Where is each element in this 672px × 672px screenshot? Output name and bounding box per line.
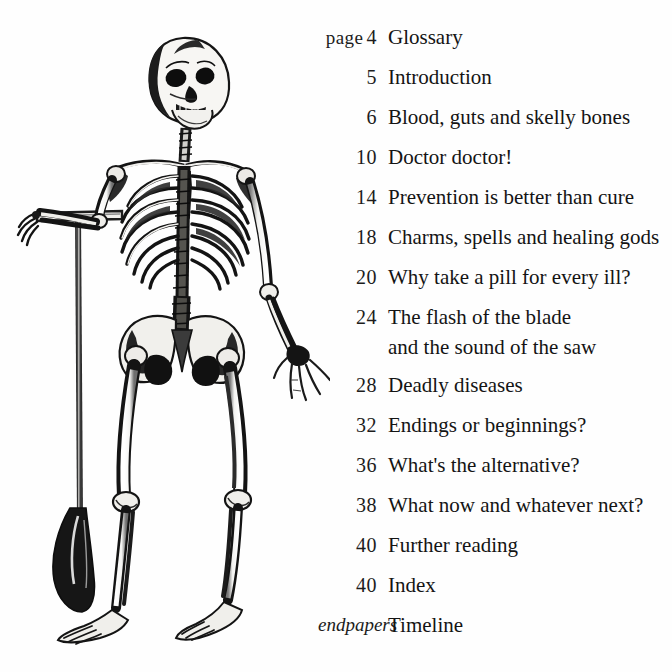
toc-page-number: 6 bbox=[318, 102, 388, 132]
toc-entry-title[interactable]: Introduction bbox=[388, 62, 672, 92]
ribcage bbox=[121, 166, 249, 300]
toc-page-number: endpapers bbox=[318, 610, 388, 640]
skeleton-illustration bbox=[0, 0, 330, 672]
toc-entry-title[interactable]: Why take a pill for every ill? bbox=[388, 262, 672, 292]
table-of-contents: page4 Glossary 5 Introduction 6 Blood, g… bbox=[318, 22, 672, 650]
toc-entry[interactable]: 38 What now and whatever next? bbox=[318, 490, 672, 530]
toc-entry[interactable]: 40 Further reading bbox=[318, 530, 672, 570]
toc-page-number: 38 bbox=[318, 490, 388, 520]
toc-entry[interactable]: 18 Charms, spells and healing gods bbox=[318, 222, 672, 262]
toc-entry-title[interactable]: Prevention is better than cure bbox=[388, 182, 672, 212]
toc-title-line2: and the sound of the saw bbox=[388, 332, 672, 362]
page-label: page bbox=[326, 27, 364, 48]
toc-entry[interactable]: 28 Deadly diseases bbox=[318, 370, 672, 410]
toc-entry[interactable]: 40 Index bbox=[318, 570, 672, 610]
toc-page-number: page4 bbox=[318, 22, 388, 53]
skull bbox=[149, 38, 230, 129]
toc-page-number: 20 bbox=[318, 262, 388, 292]
toc-page-number: 36 bbox=[318, 450, 388, 480]
toc-page: page4 Glossary 5 Introduction 6 Blood, g… bbox=[0, 0, 672, 672]
toc-entry-title[interactable]: Charms, spells and healing gods bbox=[388, 222, 672, 252]
toc-entry-title[interactable]: Glossary bbox=[388, 22, 672, 52]
toc-entry-title[interactable]: The flash of the bladeand the sound of t… bbox=[388, 302, 672, 362]
toc-title-line1: The flash of the blade bbox=[388, 305, 571, 329]
toc-entry-title[interactable]: Doctor doctor! bbox=[388, 142, 672, 172]
toc-entry[interactable]: 32 Endings or beginnings? bbox=[318, 410, 672, 450]
toc-entry-title[interactable]: Index bbox=[388, 570, 672, 600]
toc-page-number: 28 bbox=[318, 370, 388, 400]
cervical-spine bbox=[179, 128, 192, 162]
toc-entry-title[interactable]: What now and whatever next? bbox=[388, 490, 672, 520]
toc-page-number: 14 bbox=[318, 182, 388, 212]
toc-page-number: 40 bbox=[318, 570, 388, 600]
toc-page-number: 18 bbox=[318, 222, 388, 252]
toc-page-number: 40 bbox=[318, 530, 388, 560]
toc-entry-title[interactable]: What's the alternative? bbox=[388, 450, 672, 480]
spade bbox=[37, 211, 122, 612]
toc-page-number: 24 bbox=[318, 302, 388, 332]
toc-entry-title[interactable]: Timeline bbox=[388, 610, 672, 640]
toc-entry-title[interactable]: Endings or beginnings? bbox=[388, 410, 672, 440]
toc-entry[interactable]: 20 Why take a pill for every ill? bbox=[318, 262, 672, 302]
toc-page-number: 10 bbox=[318, 142, 388, 172]
toc-page-number: 5 bbox=[318, 62, 388, 92]
toc-entry-title[interactable]: Blood, guts and skelly bones bbox=[388, 102, 672, 132]
toc-entry[interactable]: 36 What's the alternative? bbox=[318, 450, 672, 490]
toc-entry[interactable]: page4 Glossary bbox=[318, 22, 672, 62]
toc-entry[interactable]: 5 Introduction bbox=[318, 62, 672, 102]
toc-entry[interactable]: 6 Blood, guts and skelly bones bbox=[318, 102, 672, 142]
toc-entry[interactable]: 14 Prevention is better than cure bbox=[318, 182, 672, 222]
toc-entry[interactable]: 10 Doctor doctor! bbox=[318, 142, 672, 182]
left-arm bbox=[18, 180, 112, 245]
toc-page-number: 32 bbox=[318, 410, 388, 440]
toc-entry[interactable]: 24 The flash of the bladeand the sound o… bbox=[318, 302, 672, 370]
toc-entry-title[interactable]: Deadly diseases bbox=[388, 370, 672, 400]
toc-entry-title[interactable]: Further reading bbox=[388, 530, 672, 560]
toc-entry[interactable]: endpapers Timeline bbox=[318, 610, 672, 650]
